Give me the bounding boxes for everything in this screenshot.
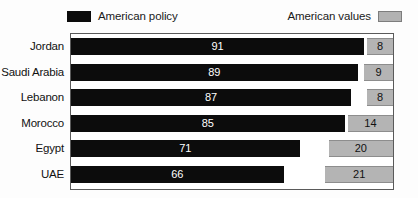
bar-row: Jordan918 — [0, 38, 418, 55]
value-label-american-policy: 71 — [179, 140, 191, 157]
value-label-american-values: 21 — [353, 166, 365, 183]
bar-row: Egypt7120 — [0, 140, 418, 157]
category-label-uae: UAE — [0, 166, 64, 183]
value-label-american-policy: 91 — [211, 38, 223, 55]
bar-row: Morocco8514 — [0, 115, 418, 132]
category-label-jordan: Jordan — [0, 38, 64, 55]
category-label-morocco: Morocco — [0, 115, 64, 132]
chart-figure: American policy American values Jordan91… — [0, 0, 418, 198]
bar-rows-container: Jordan918Saudi Arabia899Lebanon878Morocc… — [0, 33, 418, 190]
value-label-american-policy: 66 — [171, 166, 183, 183]
value-label-american-values: 14 — [364, 115, 376, 132]
bar-track: 8514 — [71, 115, 393, 132]
value-label-american-values: 20 — [355, 140, 367, 157]
legend-item-american-policy: American policy — [67, 10, 178, 22]
legend-swatch-american-policy — [67, 11, 91, 22]
bar-track: 6621 — [71, 166, 393, 183]
legend-label-american-values: American values — [287, 10, 371, 22]
bar-row: Saudi Arabia899 — [0, 64, 418, 81]
bar-track: 899 — [71, 64, 393, 81]
bar-row: Lebanon878 — [0, 89, 418, 106]
legend-item-american-values: American values — [287, 10, 402, 22]
legend-swatch-american-values — [378, 11, 402, 22]
bar-track: 918 — [71, 38, 393, 55]
value-label-american-values: 9 — [375, 64, 381, 81]
value-label-american-values: 8 — [377, 38, 383, 55]
legend-label-american-policy: American policy — [98, 10, 178, 22]
value-label-american-values: 8 — [377, 89, 383, 106]
bar-track: 7120 — [71, 140, 393, 157]
chart-legend: American policy American values — [0, 10, 418, 28]
bar-row: UAE6621 — [0, 166, 418, 183]
category-label-lebanon: Lebanon — [0, 89, 64, 106]
category-label-egypt: Egypt — [0, 140, 64, 157]
value-label-american-policy: 89 — [208, 64, 220, 81]
value-label-american-policy: 87 — [205, 89, 217, 106]
value-label-american-policy: 85 — [202, 115, 214, 132]
bar-track: 878 — [71, 89, 393, 106]
category-label-saudi-arabia: Saudi Arabia — [0, 64, 64, 81]
